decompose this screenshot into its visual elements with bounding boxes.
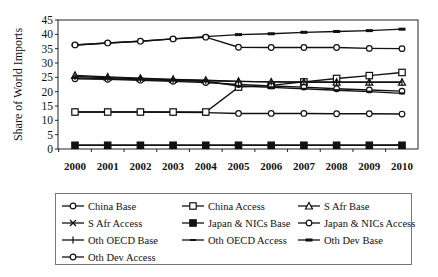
y-tick-label: 15 xyxy=(42,100,54,112)
line-chart: 0510152025303540452000200120022003200420… xyxy=(0,0,438,190)
x-tick-label: 2004 xyxy=(195,160,218,172)
legend-marker-icon xyxy=(180,201,206,211)
y-tick-label: 30 xyxy=(42,57,54,69)
x-tick-label: 2005 xyxy=(228,160,251,172)
y-tick-label: 5 xyxy=(47,129,53,141)
y-tick-label: 10 xyxy=(42,114,54,126)
legend-marker-icon xyxy=(60,252,86,262)
legend-label: Japan & NICs Access xyxy=(324,218,415,229)
legend-item: Oth Dev Base xyxy=(296,232,383,248)
legend-label: S Afr Base xyxy=(324,201,370,212)
legend-label: Oth OECD Base xyxy=(88,235,158,246)
x-tick-label: 2002 xyxy=(129,160,152,172)
chart-legend: China Base China Access S Afr Base S Afr… xyxy=(55,193,412,265)
x-tick-label: 2000 xyxy=(64,160,87,172)
y-tick-label: 20 xyxy=(42,86,54,98)
y-tick-label: 35 xyxy=(42,43,54,55)
x-tick-label: 2003 xyxy=(162,160,185,172)
legend-label: China Base xyxy=(88,201,136,212)
legend-marker-icon xyxy=(180,235,206,245)
legend-item: S Afr Access xyxy=(60,215,142,231)
legend-item: Japan & NICs Access xyxy=(296,215,415,231)
y-axis-title: Share of World Imports xyxy=(11,28,25,141)
legend-item: S Afr Base xyxy=(296,198,370,214)
legend-label: S Afr Access xyxy=(88,218,142,229)
x-tick-label: 2010 xyxy=(391,160,414,172)
legend-marker-icon xyxy=(180,218,206,228)
y-tick-label: 0 xyxy=(47,143,53,155)
series-line xyxy=(72,109,405,117)
x-tick-label: 2008 xyxy=(326,160,349,172)
legend-marker-icon xyxy=(60,218,86,228)
legend-label: Japan & NICs Base xyxy=(208,218,291,229)
legend-item: China Base xyxy=(60,198,136,214)
legend-item: Japan & NICs Base xyxy=(180,215,291,231)
legend-marker-icon xyxy=(296,201,322,211)
y-tick-label: 45 xyxy=(42,14,54,26)
x-tick-label: 2009 xyxy=(358,160,381,172)
series-line xyxy=(72,34,405,51)
legend-marker-icon xyxy=(60,235,86,245)
legend-label: Oth OECD Access xyxy=(208,235,287,246)
legend-item: Oth Dev Access xyxy=(60,249,156,265)
legend-marker-icon xyxy=(60,201,86,211)
series-line xyxy=(72,142,405,148)
x-tick-label: 2006 xyxy=(260,160,283,172)
x-tick-label: 2007 xyxy=(293,160,316,172)
legend-item: China Access xyxy=(180,198,265,214)
legend-marker-icon xyxy=(296,218,322,228)
y-tick-label: 25 xyxy=(42,71,54,83)
legend-item: Oth OECD Base xyxy=(60,232,158,248)
y-tick-label: 40 xyxy=(42,28,54,40)
series-line xyxy=(72,28,406,47)
legend-item: Oth OECD Access xyxy=(180,232,287,248)
x-tick-label: 2001 xyxy=(97,160,119,172)
legend-label: China Access xyxy=(208,201,265,212)
legend-label: Oth Dev Base xyxy=(324,235,383,246)
legend-label: Oth Dev Access xyxy=(88,252,156,263)
series-line xyxy=(72,69,405,115)
legend-marker-icon xyxy=(296,235,322,245)
